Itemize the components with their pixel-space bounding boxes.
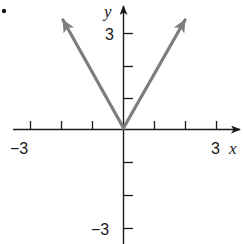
x-tick-label-max: 3 <box>211 140 220 157</box>
y-axis-ticks <box>124 34 134 229</box>
x-axis-label: x <box>228 139 237 158</box>
y-tick-label-min: −3 <box>91 221 109 238</box>
right-ray <box>124 20 186 128</box>
y-tick-label-max: 3 <box>105 26 114 43</box>
x-tick-label-min: −3 <box>10 140 28 157</box>
coordinate-plane: −3 3 x y 3 −3 <box>0 0 243 244</box>
y-axis-label: y <box>102 2 112 21</box>
left-ray <box>63 20 124 128</box>
figure-label <box>2 9 6 13</box>
